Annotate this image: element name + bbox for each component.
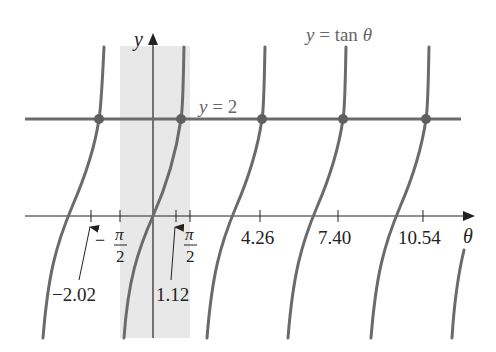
line-label: y = 2 [197, 96, 237, 117]
tan-branch-3 [207, 47, 265, 338]
y-axis-arrow-icon [148, 33, 158, 45]
tick-label-10-54: 10.54 [398, 227, 441, 248]
tick-label-4-26: 4.26 [241, 227, 274, 248]
x-axis-arrow-icon [463, 211, 475, 221]
neg-pi-den: 2 [116, 247, 125, 266]
y-axis-label: y [132, 28, 143, 51]
pi-num: π [185, 225, 194, 244]
tan-equation-diagram: y θ y = tan θ y = 2 − π 2 π 2 4.26 7.40 … [0, 0, 496, 352]
pi-den: 2 [186, 247, 195, 266]
tan-curve [43, 47, 464, 338]
tick-label-7-40: 7.40 [318, 227, 351, 248]
tan-branch-5 [371, 47, 429, 338]
theta-axis-label: θ [463, 225, 473, 247]
arrow-neg-2-02 [79, 227, 90, 280]
curve-label: y = tan θ [304, 24, 372, 45]
annotation-1-12: 1.12 [156, 284, 189, 305]
tan-branch-6-partial [452, 250, 464, 338]
neg-pi-num: π [115, 225, 124, 244]
annotation-neg-2-02: −2.02 [52, 284, 96, 305]
neg-sign: − [95, 230, 105, 250]
tan-branch-4 [288, 47, 346, 338]
